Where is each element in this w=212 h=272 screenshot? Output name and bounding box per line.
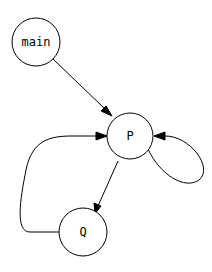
edge-p-to-q <box>94 161 118 214</box>
node-q[interactable]: Q <box>59 208 107 256</box>
node-main[interactable]: main <box>12 18 60 66</box>
arrowhead-icon <box>96 132 107 140</box>
node-q-label: Q <box>79 225 86 239</box>
node-p-label: P <box>126 129 133 143</box>
edge-main-to-p <box>53 59 112 116</box>
edge-p-self-loop <box>148 132 204 183</box>
arrowhead-icon <box>101 106 112 116</box>
node-p[interactable]: P <box>107 113 153 159</box>
call-graph: main P Q <box>0 0 212 272</box>
node-main-label: main <box>22 35 51 49</box>
arrowhead-icon <box>154 132 165 140</box>
